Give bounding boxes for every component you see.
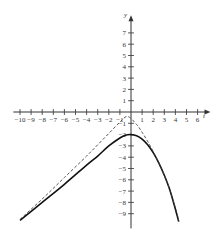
dashed-curve	[20, 116, 179, 220]
y-tick-label: −1	[119, 120, 127, 128]
y-axis-arrow-icon	[129, 15, 134, 21]
x-tick-label: −5	[72, 116, 80, 124]
x-tick-label: 1	[140, 116, 144, 124]
y-tick-label: 4	[123, 63, 127, 71]
y-axis-label: y	[123, 11, 128, 19]
y-tick-label: −4	[119, 154, 127, 162]
x-tick-label: −2	[105, 116, 113, 124]
axes: −10−9−8−7−6−5−4−3−2−1123456−9−8−7−6−5−4−…	[13, 15, 210, 228]
series-group	[20, 116, 179, 221]
x-tick-label: −8	[38, 116, 46, 124]
x-tick-label: 4	[174, 116, 178, 124]
y-tick-label: −5	[119, 165, 127, 173]
x-tick-label: 5	[185, 116, 189, 124]
x-tick-label: −6	[61, 116, 69, 124]
chart-plot: −10−9−8−7−6−5−4−3−2−1123456−9−8−7−6−5−4−…	[0, 0, 220, 239]
y-tick-label: 5	[123, 52, 127, 60]
x-tick-label: −7	[50, 116, 58, 124]
y-tick-label: 3	[123, 75, 127, 83]
y-tick-label: −7	[119, 188, 127, 196]
x-axis-arrow-icon	[204, 110, 210, 115]
y-tick-label: −6	[119, 176, 127, 184]
y-tick-label: 2	[123, 86, 127, 94]
solid-curve	[20, 135, 179, 222]
x-tick-label: −4	[83, 116, 91, 124]
y-tick-label: −8	[119, 199, 127, 207]
x-tick-label: −10	[15, 116, 26, 124]
x-tick-label: −9	[27, 116, 35, 124]
x-tick-label: 6	[196, 116, 200, 124]
y-tick-label: 6	[123, 41, 127, 49]
x-tick-label: 3	[163, 116, 167, 124]
y-tick-label: 1	[123, 97, 127, 105]
x-tick-label: 2	[151, 116, 155, 124]
y-tick-label: 7	[123, 29, 127, 37]
y-tick-label: −9	[119, 210, 127, 218]
x-tick-label: −3	[94, 116, 102, 124]
y-tick-label: −3	[119, 142, 127, 150]
